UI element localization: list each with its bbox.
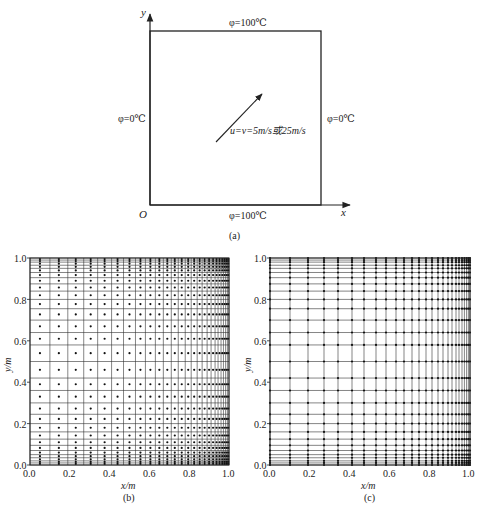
grid-node bbox=[337, 261, 339, 263]
grid-node bbox=[385, 413, 387, 415]
grid-node bbox=[221, 313, 223, 315]
grid-node bbox=[174, 274, 176, 276]
grid-node bbox=[193, 280, 195, 282]
grid-node bbox=[223, 427, 225, 429]
y-tick-label: 0.2 bbox=[254, 419, 267, 430]
grid-node bbox=[158, 280, 160, 282]
grid-node bbox=[181, 269, 183, 271]
grid-node bbox=[187, 274, 189, 276]
grid-node bbox=[174, 294, 176, 296]
grid-node bbox=[307, 460, 309, 462]
grid-node bbox=[158, 313, 160, 315]
grid-node bbox=[455, 344, 457, 346]
grid-node bbox=[208, 313, 210, 315]
grid-node bbox=[212, 461, 214, 463]
grid-node bbox=[411, 264, 413, 266]
grid-node bbox=[212, 383, 214, 385]
grid-node bbox=[221, 352, 223, 354]
grid-node bbox=[289, 389, 291, 391]
grid-node bbox=[39, 461, 41, 463]
grid-node bbox=[218, 269, 220, 271]
grid-node bbox=[104, 369, 106, 371]
grid-node bbox=[139, 338, 141, 340]
grid-node bbox=[337, 423, 339, 425]
grid-node bbox=[385, 271, 387, 273]
grid-node bbox=[395, 267, 397, 269]
boundary-right-label: φ=0℃ bbox=[327, 113, 355, 124]
grid-node bbox=[104, 427, 106, 429]
grid-node bbox=[104, 274, 106, 276]
grid-node bbox=[215, 280, 217, 282]
grid-node bbox=[363, 259, 365, 261]
grid-node bbox=[90, 396, 92, 398]
grid-node bbox=[431, 402, 433, 404]
grid-node bbox=[139, 303, 141, 305]
grid-node bbox=[418, 423, 420, 425]
grid-node bbox=[463, 454, 465, 456]
grid-node bbox=[158, 274, 160, 276]
grid-node bbox=[174, 369, 176, 371]
grid-node bbox=[149, 458, 151, 460]
grid-node bbox=[204, 294, 206, 296]
grid-node bbox=[418, 298, 420, 300]
grid-node bbox=[204, 418, 206, 420]
grid-node bbox=[431, 267, 433, 269]
grid-node bbox=[403, 261, 405, 263]
grid-node bbox=[337, 298, 339, 300]
grid-node bbox=[128, 451, 130, 453]
grid-node bbox=[323, 460, 325, 462]
grid-node bbox=[221, 325, 223, 327]
grid-node bbox=[181, 263, 183, 265]
grid-node bbox=[455, 298, 457, 300]
grid-node bbox=[104, 266, 106, 268]
grid-node bbox=[116, 427, 118, 429]
grid-node bbox=[425, 462, 427, 464]
grid-node bbox=[181, 407, 183, 409]
grid-node bbox=[149, 313, 151, 315]
grid-node bbox=[363, 413, 365, 415]
x-axis-title-b: x/m bbox=[120, 480, 135, 491]
grid-node bbox=[463, 457, 465, 459]
grid-node bbox=[174, 303, 176, 305]
grid-node bbox=[139, 325, 141, 327]
grid-node bbox=[181, 338, 183, 340]
grid-node bbox=[139, 369, 141, 371]
grid-node bbox=[307, 271, 309, 273]
grid-node bbox=[75, 352, 77, 354]
grid-node bbox=[418, 377, 420, 379]
grid-node bbox=[187, 407, 189, 409]
grid-node bbox=[193, 407, 195, 409]
grid-node bbox=[221, 260, 223, 262]
grid-node bbox=[181, 441, 183, 443]
grid-node bbox=[193, 458, 195, 460]
grid-node bbox=[90, 369, 92, 371]
grid-node bbox=[461, 290, 463, 292]
grid-node bbox=[375, 457, 377, 459]
x-tick-label: 0.8 bbox=[423, 468, 436, 479]
grid-node bbox=[116, 407, 118, 409]
grid-node bbox=[208, 447, 210, 449]
grid-node bbox=[149, 418, 151, 420]
grid-node bbox=[363, 389, 365, 391]
grid-node bbox=[463, 423, 465, 425]
grid-node bbox=[363, 449, 365, 451]
grid-node bbox=[218, 461, 220, 463]
grid-node bbox=[363, 331, 365, 333]
grid-node bbox=[461, 462, 463, 464]
grid-node bbox=[337, 377, 339, 379]
grid-node bbox=[166, 274, 168, 276]
grid-node bbox=[104, 260, 106, 262]
grid-node bbox=[337, 449, 339, 451]
grid-node bbox=[425, 460, 427, 462]
grid-node bbox=[166, 441, 168, 443]
grid-node bbox=[116, 303, 118, 305]
grid-node bbox=[204, 383, 206, 385]
grid-node bbox=[437, 423, 439, 425]
grid-node bbox=[174, 461, 176, 463]
grid-node bbox=[461, 454, 463, 456]
grid-node bbox=[187, 396, 189, 398]
grid-node bbox=[385, 423, 387, 425]
grid-node bbox=[58, 396, 60, 398]
grid-node bbox=[128, 427, 130, 429]
grid-node bbox=[174, 418, 176, 420]
